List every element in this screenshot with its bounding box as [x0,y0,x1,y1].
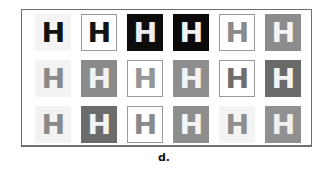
glyph-cell: H [219,106,255,143]
glyph-cell: H [35,14,71,51]
letter-h-glyph: H [179,19,203,46]
letter-h-glyph: H [225,19,249,46]
glyph-cell: H [265,106,301,143]
letter-h-glyph: H [133,19,157,46]
letter-h-glyph: H [225,111,249,138]
letter-h-glyph: H [41,19,65,46]
letter-h-glyph: H [225,65,249,92]
glyph-cell: H [81,60,117,97]
letter-h-glyph: H [179,65,203,92]
letter-h-glyph: H [87,19,111,46]
glyph-cell: H [81,14,117,51]
letter-h-glyph: H [87,111,111,138]
glyph-cell: H [81,106,117,143]
letter-h-glyph: H [271,111,295,138]
letter-h-glyph: H [41,65,65,92]
letter-h-glyph: H [271,65,295,92]
glyph-grid: HHHHHHHHHHHHHHHHHH [35,14,301,143]
glyph-cell: H [35,106,71,143]
glyph-cell: H [127,106,163,143]
letter-h-glyph: H [179,111,203,138]
letter-h-glyph: H [133,65,157,92]
glyph-cell: H [127,14,163,51]
letter-h-glyph: H [41,111,65,138]
glyph-cell: H [173,60,209,97]
glyph-cell: H [127,60,163,97]
letter-h-glyph: H [87,65,111,92]
letter-h-glyph: H [133,111,157,138]
glyph-cell: H [219,60,255,97]
glyph-cell: H [173,106,209,143]
figure-frame: HHHHHHHHHHHHHHHHHH [21,9,312,147]
glyph-cell: H [219,14,255,51]
glyph-cell: H [35,60,71,97]
letter-h-glyph: H [271,19,295,46]
glyph-cell: H [173,14,209,51]
glyph-cell: H [265,14,301,51]
figure-caption: d. [0,151,328,164]
glyph-cell: H [265,60,301,97]
